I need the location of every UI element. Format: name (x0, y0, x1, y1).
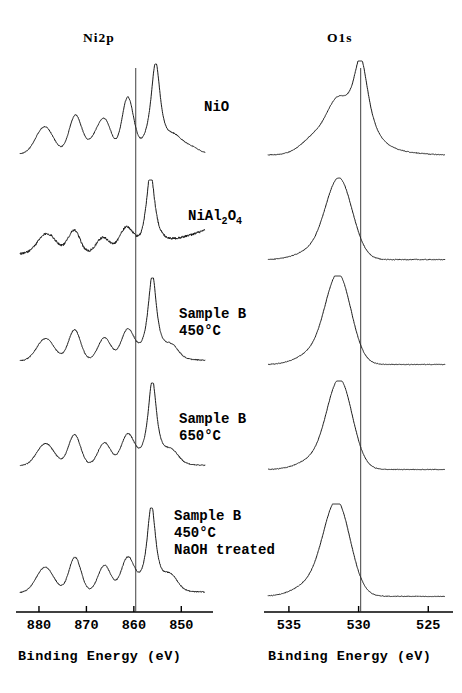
spectra-plot-canvas (0, 0, 462, 693)
trace-label-nio: NiO (204, 99, 229, 116)
o1s-trace-sampleb-450 (268, 276, 445, 365)
trace-label-sampleb-650: Sample B 650°C (179, 411, 246, 445)
tick-label-ni2p-870: 870 (74, 618, 98, 633)
ni2p-trace-sampleb-650 (20, 383, 205, 466)
o1s-trace-nial2o4 (268, 178, 445, 260)
tick-label-ni2p-880: 880 (27, 618, 51, 633)
trace-label-nial2o4: NiAl2O4 (188, 208, 242, 230)
xps-figure: Ni2p O1s NiO NiAl2O4 Sample B 450°C Samp… (0, 0, 462, 693)
trace-label-nio-text: NiO (204, 99, 229, 115)
tick-label-o1s-535: 535 (277, 618, 301, 633)
trace-label-sampleb-450: Sample B 450°C (179, 306, 246, 340)
trace-label-nial2o4-o: O (228, 208, 236, 224)
o1s-trace-nio (268, 61, 445, 155)
trace-label-sampleb-650-line1: Sample B (179, 411, 246, 428)
ni2p-trace-nial2o4 (20, 180, 205, 254)
trace-label-nial2o4-sub4: 4 (236, 216, 242, 227)
o1s-trace-sampleb-450-naoh (268, 504, 445, 597)
tick-label-o1s-525: 525 (416, 618, 440, 633)
trace-label-sampleb-650-line2: 650°C (179, 428, 246, 445)
tick-label-o1s-530: 530 (346, 618, 370, 633)
trace-label-naoh-line3: NaOH treated (174, 542, 275, 559)
axis-label-o1s: Binding Energy (eV) (268, 649, 431, 664)
axes-group (16, 606, 453, 612)
axis-label-ni2p: Binding Energy (eV) (18, 649, 181, 664)
trace-label-naoh-line2: 450°C (174, 525, 275, 542)
ni2p-trace-nio (20, 64, 205, 154)
tick-label-ni2p-850: 850 (169, 618, 193, 633)
trace-label-sampleb-450-line2: 450°C (179, 323, 246, 340)
trace-label-nial2o4-main: NiAl (188, 208, 222, 224)
trace-label-naoh-line1: Sample B (174, 508, 275, 525)
o1s-trace-group (268, 61, 445, 597)
ni2p-trace-sampleb-450 (20, 278, 205, 361)
trace-label-sampleb-450-line1: Sample B (179, 306, 246, 323)
panel-header-ni2p: Ni2p (83, 30, 115, 46)
panel-header-o1s: O1s (327, 30, 353, 46)
tick-label-ni2p-860: 860 (122, 618, 146, 633)
o1s-trace-sampleb-650 (268, 381, 445, 470)
trace-label-sampleb-450-naoh: Sample B 450°C NaOH treated (174, 508, 275, 559)
